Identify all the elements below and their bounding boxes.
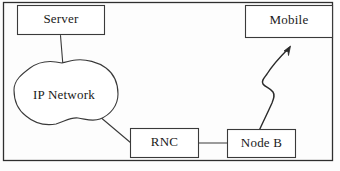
diagram-canvas: IP Network Server Mobile RNC Node B: [0, 0, 340, 171]
mobile-label: Mobile: [270, 12, 309, 27]
network-diagram: IP Network Server Mobile RNC Node B: [0, 0, 340, 171]
node-b-label: Node B: [241, 135, 282, 150]
wireless-arrow-head-icon: [284, 46, 291, 56]
link-server-to-ip-network: [61, 36, 64, 67]
server-label: Server: [43, 11, 79, 26]
ip-network-label: IP Network: [33, 87, 95, 102]
link-ip-network-to-rnc: [99, 116, 131, 143]
rnc-label: RNC: [151, 134, 178, 149]
wireless-link-node-b-to-mobile: [258, 49, 289, 134]
